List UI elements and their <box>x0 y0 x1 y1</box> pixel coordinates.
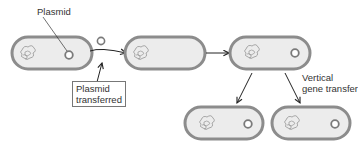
division-arrow-right <box>285 73 300 103</box>
label-arrow <box>97 63 102 82</box>
daughter-cell-1 <box>185 107 263 139</box>
plasmid-icon <box>65 51 73 59</box>
plasmid-icon <box>291 49 299 57</box>
plasmid-icon <box>244 120 252 128</box>
transformed-cell <box>230 37 310 69</box>
transfer-arrow <box>90 49 126 53</box>
daughter-cell-2 <box>272 107 350 139</box>
vertical-label-line1: Vertical <box>302 72 333 83</box>
plasmid-transferred-line1: Plasmid <box>76 83 122 94</box>
donor-cell <box>12 37 92 69</box>
division-arrow-left <box>237 73 252 103</box>
plasmid-label: Plasmid <box>37 6 71 17</box>
recipient-cell <box>125 37 205 69</box>
plasmid-transferred-line2: transferred <box>76 94 122 105</box>
plasmid-transferred-label: Plasmid transferred <box>72 81 126 107</box>
plasmid-icon <box>331 120 339 128</box>
free-plasmid-icon <box>97 37 104 44</box>
vertical-label-line2: gene transfer <box>302 83 358 94</box>
